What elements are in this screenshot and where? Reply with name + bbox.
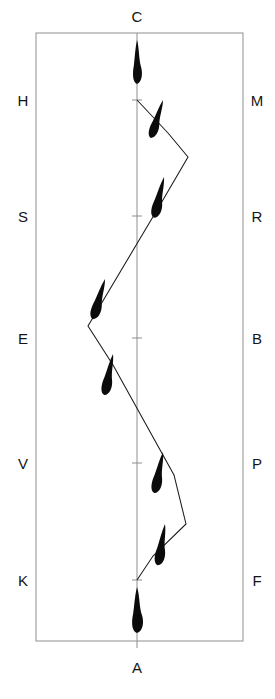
marker-lower-2 (153, 523, 170, 566)
teardrop-icon (88, 278, 110, 321)
axis-label-right-b: B (252, 330, 262, 347)
teardrop-icon (150, 451, 168, 494)
teardrop-icon (150, 176, 170, 219)
axis-label-right-m: M (251, 92, 264, 109)
axis-label-left-h: H (18, 92, 29, 109)
side-label-group: HSEVKMRBPF (18, 92, 264, 589)
marker-c-top (133, 40, 142, 84)
axis-label-left-v: V (18, 455, 28, 472)
axis-label-bottom: A (132, 659, 142, 676)
axis-label-left-k: K (18, 572, 28, 589)
axis-label-right-p: P (252, 455, 262, 472)
figure-canvas: C A HSEVKMRBPF (0, 0, 275, 699)
marker-a-bottom (132, 587, 143, 633)
marker-lower-1 (150, 451, 168, 494)
teardrop-icon (132, 587, 143, 633)
ladder-diagram: C A HSEVKMRBPF (0, 0, 275, 699)
teardrop-icon (147, 99, 168, 140)
track-polyline (88, 100, 188, 580)
teardrop-icon (133, 40, 142, 84)
axis-label-left-e: E (18, 330, 28, 347)
axis-label-top: C (132, 8, 143, 25)
marker-group (88, 40, 170, 633)
axis-label-right-r: R (252, 208, 263, 225)
marker-upper-1 (147, 99, 168, 140)
teardrop-icon (153, 523, 170, 566)
axis-label-right-f: F (252, 572, 261, 589)
marker-upper-2 (150, 176, 170, 219)
axis-label-left-s: S (18, 208, 28, 225)
plot-frame (36, 33, 243, 641)
marker-mid-left (88, 278, 110, 321)
